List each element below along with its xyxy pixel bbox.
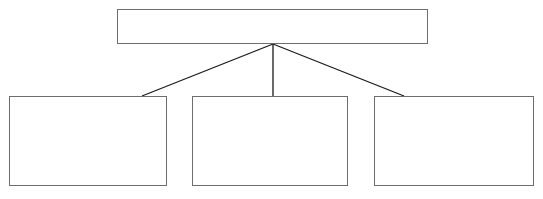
child-node-box-1[interactable] (9, 96, 167, 186)
connector-root-to-left (142, 44, 273, 96)
hierarchy-diagram (0, 0, 543, 199)
child-node-label-2 (193, 97, 347, 185)
child-node-label-1 (10, 97, 166, 185)
child-node-label-3 (375, 97, 533, 185)
child-node-box-3[interactable] (374, 96, 534, 186)
root-node-label (118, 10, 427, 43)
child-node-box-2[interactable] (192, 96, 348, 186)
root-node-box[interactable] (117, 9, 428, 44)
connector-root-to-right (273, 44, 404, 96)
